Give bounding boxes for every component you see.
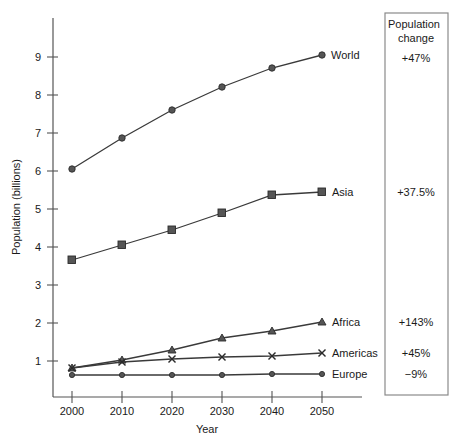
y-tick-label-8: 8 [35, 89, 41, 101]
series-americas-line [72, 353, 322, 368]
series-asia-point [68, 256, 76, 264]
panel-title-line1: Population [388, 18, 440, 30]
series-africa-line [72, 322, 322, 368]
x-tick-label-2010: 2010 [110, 405, 134, 417]
panel-title-line2: change [398, 32, 434, 44]
y-tick-label-1: 1 [35, 355, 41, 367]
panel-value-asia: +37.5% [397, 186, 435, 198]
series-label-europe: Europe [332, 368, 367, 380]
series-world-point [319, 52, 325, 58]
x-tick-label-2020: 2020 [160, 405, 184, 417]
series-asia-point [268, 191, 276, 199]
panel-value-world: +47% [402, 52, 431, 64]
series-world-point [119, 135, 125, 141]
series-world-point [69, 166, 75, 172]
series-europe: Europe [69, 368, 367, 380]
x-tick-label-2000: 2000 [60, 405, 84, 417]
series-europe-point [169, 372, 174, 377]
y-axis-tick-labels: 9 8 7 6 5 4 3 2 1 [35, 51, 41, 367]
series-africa-point [318, 318, 326, 325]
y-tick-label-9: 9 [35, 51, 41, 63]
y-tick-label-7: 7 [35, 127, 41, 139]
series-asia-point [218, 209, 226, 217]
x-tick-label-2040: 2040 [260, 405, 284, 417]
series-world-point [169, 107, 175, 113]
x-axis-title: Year [196, 423, 219, 435]
y-tick-label-5: 5 [35, 203, 41, 215]
x-tick-label-2030: 2030 [210, 405, 234, 417]
y-tick-label-6: 6 [35, 165, 41, 177]
population-projection-chart: 9 8 7 6 5 4 3 2 1 2000 2010 2020 2030 20… [0, 0, 453, 439]
x-axis-tick-labels: 2000 2010 2020 2030 2040 2050 [60, 405, 334, 417]
chart-canvas: 9 8 7 6 5 4 3 2 1 2000 2010 2020 2030 20… [0, 0, 453, 439]
series-asia-point [118, 241, 126, 249]
y-tick-label-4: 4 [35, 241, 41, 253]
x-tick-label-2050: 2050 [310, 405, 334, 417]
axes-group [53, 18, 362, 397]
y-axis-title: Population (billions) [10, 159, 22, 255]
population-change-panel: Population change +47% +37.5% +143% +45%… [385, 13, 448, 395]
series-asia-point [318, 188, 326, 196]
panel-value-europe: −9% [405, 368, 428, 380]
series-world-point [219, 84, 225, 90]
series-asia-point [168, 226, 176, 234]
series-europe-point [319, 371, 324, 376]
series-world: World [69, 49, 360, 172]
panel-value-africa: +143% [399, 316, 434, 328]
series-asia: Asia [68, 186, 354, 264]
series-europe-point [119, 372, 124, 377]
panel-border [385, 13, 448, 395]
series-label-world: World [331, 49, 360, 61]
series-label-americas: Americas [332, 347, 378, 359]
y-tick-label-2: 2 [35, 317, 41, 329]
panel-value-americas: +45% [402, 347, 431, 359]
series-world-line [72, 55, 322, 169]
series-world-point [269, 65, 275, 71]
y-tick-label-3: 3 [35, 279, 41, 291]
series-europe-point [69, 372, 74, 377]
series-europe-point [219, 372, 224, 377]
series-label-asia: Asia [332, 186, 354, 198]
series-label-africa: Africa [332, 316, 361, 328]
series-asia-line [72, 192, 322, 260]
series-europe-line [72, 374, 322, 375]
series-europe-point [269, 371, 274, 376]
